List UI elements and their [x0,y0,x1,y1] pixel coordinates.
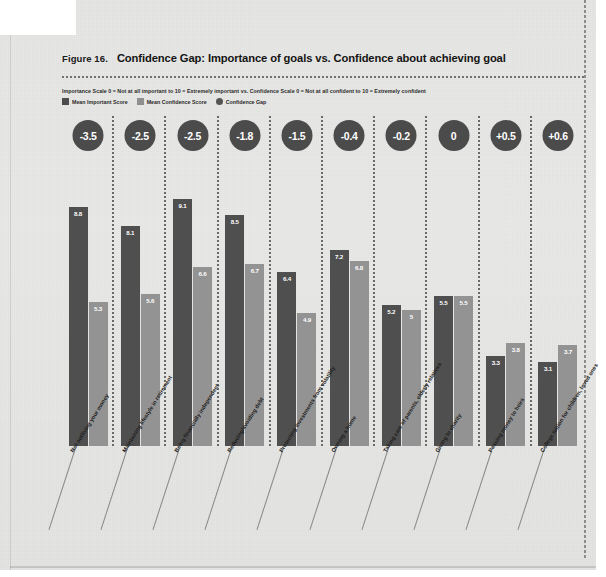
category-tick-group: Taking care of parents, elderly relative… [375,446,427,556]
bar-pair: 5.25 [375,174,427,446]
confidence-gap-bubble: -3.5 [73,120,104,151]
bar-value-label: 6.7 [251,267,259,274]
legend-swatch-confidence-icon [137,98,144,105]
category-tick-group: Giving to charity [427,446,479,556]
bar-value-label: 5.5 [460,299,468,306]
bar-important: 8.5 [225,215,244,446]
bar-pair: 3.33.8 [480,174,532,446]
bar-value-label: 5.5 [440,299,448,306]
bar-group: 05.55.5 [427,116,479,446]
legend-label-confidence: Mean Confidence Score [147,99,207,105]
legend-label-important: Mean Important Score [72,99,128,105]
bar-value-label: 6.4 [283,275,291,282]
confidence-gap-bubble: -1.8 [229,120,260,151]
bar-pair: 8.85.3 [62,174,114,446]
page-left-edge [10,35,11,570]
figure-title: Confidence Gap: Importance of goals vs. … [117,52,506,64]
bar-value-label: 7.2 [335,253,343,260]
bar-group: -1.88.56.7 [219,116,271,446]
category-tick-group: Passing money to heirs [480,446,532,556]
figure-header: Figure 16. Confidence Gap: Importance of… [62,52,532,64]
page-right-margin [596,0,606,577]
bar-pair: 5.55.5 [427,174,479,446]
category-tick-group: Maintaining lifestyle in retirement [114,446,166,556]
bar-pair: 8.15.6 [114,174,166,446]
category-axis: Not outliving your moneyMaintaining life… [62,446,584,556]
bar-value-label: 3.8 [512,346,520,353]
confidence-gap-bubble: -2.5 [177,120,208,151]
bar-value-label: 5.2 [387,308,395,315]
page-corner-cutout-inner [0,0,26,31]
bar-value-label: 4.9 [303,316,311,323]
figure-page: Figure 16. Confidence Gap: Importance of… [0,0,606,577]
category-tick-group: Owning a home [323,446,375,556]
bar-value-label: 6.6 [198,270,206,277]
bar-group: +0.53.33.8 [480,116,532,446]
bar-confidence: 4.9 [297,313,316,446]
figure-number: Figure 16. [62,53,108,64]
legend-item-confidence: Mean Confidence Score [137,98,207,105]
bar-groups: -3.58.85.3-2.58.15.6-2.59.16.6-1.88.56.7… [62,116,584,446]
bar-important: 8.1 [121,226,140,446]
scale-note: Importance Scale 0 = Not at all importan… [62,88,426,94]
bar-group: -0.47.26.8 [323,116,375,446]
bar-value-label: 3.7 [564,348,572,355]
confidence-gap-bubble: -1.5 [281,120,312,151]
chart-plot-area: -3.58.85.3-2.58.15.6-2.59.16.6-1.88.56.7… [62,116,584,446]
bar-pair: 7.26.8 [323,174,375,446]
confidence-gap-bubble: +0.6 [542,120,573,151]
confidence-gap-bubble: -2.5 [125,120,156,151]
right-dotted-rule [584,0,586,560]
bar-value-label: 8.8 [74,210,82,217]
bar-value-label: 5 [410,313,413,320]
bar-important: 6.4 [277,272,296,446]
bar-value-label: 9.1 [178,202,186,209]
category-tick-group: Protecting investments from volatility [271,446,323,556]
bar-pair: 6.44.9 [271,174,323,446]
bar-confidence: 3.8 [506,343,525,446]
bar-value-label: 5.3 [94,305,102,312]
bar-value-label: 3.3 [492,359,500,366]
bar-pair: 3.13.7 [532,174,584,446]
bar-pair: 8.56.7 [219,174,271,446]
category-tick-group: College tuition for children, loved ones [532,446,584,556]
header-divider [62,76,584,78]
category-tick-group: Being financially independent [166,446,218,556]
confidence-gap-bubble: 0 [438,120,469,151]
bar-value-label: 8.1 [126,229,134,236]
bar-confidence: 5 [402,310,421,446]
bar-value-label: 3.1 [544,365,552,372]
legend-swatch-important-icon [62,98,69,105]
bar-value-label: 5.6 [146,297,154,304]
legend: Mean Important Score Mean Confidence Sco… [62,98,266,105]
bar-value-label: 6.8 [355,264,363,271]
page-bottom-edge [10,566,596,568]
confidence-gap-bubble: -0.4 [334,120,365,151]
confidence-gap-bubble: -0.2 [386,120,417,151]
legend-label-gap: Confidence Gap [226,99,267,105]
category-tick-group: Not outliving your money [62,446,114,556]
bar-important: 8.8 [69,207,88,446]
bar-value-label: 8.5 [231,218,239,225]
confidence-gap-bubble: +0.5 [490,120,521,151]
bar-pair: 9.16.6 [166,174,218,446]
legend-item-gap: Confidence Gap [216,98,267,105]
category-tick-group: Reducing/avoiding debt [219,446,271,556]
legend-item-important: Mean Important Score [62,98,128,105]
bar-important: 7.2 [330,250,349,446]
legend-swatch-gap-icon [216,98,223,105]
bar-important: 9.1 [173,199,192,447]
page-bottom-margin [0,570,606,577]
